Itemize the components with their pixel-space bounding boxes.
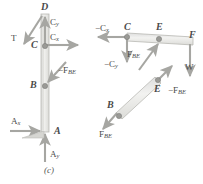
force-subscript-Ax: x [18, 119, 21, 126]
arrow-FBE-right [139, 44, 158, 70]
force-label-FBE-right: FBE [127, 50, 140, 60]
force-subscript-neg-Cx: x [106, 26, 109, 33]
force-subscript-Ay: y [57, 152, 60, 159]
force-label-neg-FBE-diagonal: −FBE [168, 86, 186, 96]
force-label-neg-Cy: −Cy [104, 60, 118, 70]
force-subscript-FBE-diagonal: BE [104, 132, 112, 139]
figure-caption: (c) [44, 166, 54, 175]
force-symbol-T: T [11, 33, 17, 43]
force-subscript-Cy-left: y [56, 20, 59, 27]
force-label-FBE-diagonal: FBE [99, 130, 112, 140]
point-label-F: F [189, 30, 196, 40]
point-label-A: A [54, 126, 61, 136]
arrow-FBE-diagonal [103, 113, 117, 129]
force-subscript-FBE-right: BE [132, 52, 140, 59]
point-label-E-top: E [156, 22, 163, 32]
force-label-neg-Cx: −Cx [95, 24, 109, 34]
force-subscript-Cx-left: x [56, 35, 59, 42]
force-subscript-neg-FBE-left: BE [68, 68, 76, 75]
point-label-B-diagonal: B [107, 100, 114, 110]
point-label-E-diagonal: E [154, 84, 161, 94]
force-label-Ay: Ay [50, 150, 59, 160]
point-label-D: D [41, 2, 48, 12]
force-label-W: W [185, 63, 194, 73]
force-subscript-neg-FBE-diagonal: BE [178, 88, 186, 95]
point-label-B-left: B [30, 80, 37, 90]
arrow-neg-FBE-diagonal [158, 66, 172, 80]
force-subscript-neg-Cy: y [115, 62, 118, 69]
force-label-neg-FBE-left: −FBE [58, 66, 76, 76]
force-label-Cy-left: Cy [50, 18, 59, 28]
point-label-C-right: C [124, 22, 131, 32]
force-label-T: T [11, 34, 17, 44]
force-label-Ax: Ax [11, 117, 20, 127]
point-label-C-left: C [31, 40, 38, 50]
force-symbol-W: W [185, 62, 194, 72]
force-label-Cx-left: Cx [50, 33, 59, 43]
